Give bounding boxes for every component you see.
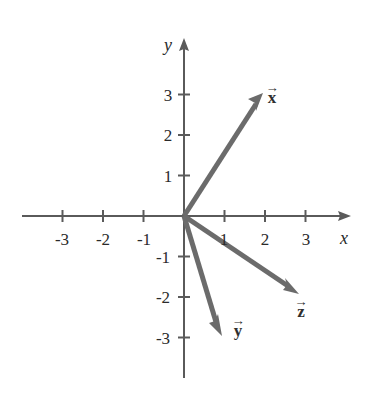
- x-tick-label-3: 3: [302, 231, 311, 248]
- x-tick-label--3: -3: [55, 231, 69, 248]
- x-tick-label--2: -2: [96, 231, 110, 248]
- vector-y-label-arrow-icon: →: [231, 313, 244, 326]
- x-tick-label-2: 2: [261, 231, 270, 248]
- x-axis-label: x: [340, 229, 348, 247]
- vector-z-label: → z: [297, 303, 305, 320]
- vector-y-label: → y: [234, 322, 243, 339]
- coordinate-plane-svg: [0, 0, 381, 398]
- y-tick-label--1: -1: [156, 249, 170, 266]
- y-tick-label--2: -2: [156, 289, 170, 306]
- x-tick-label--1: -1: [137, 231, 151, 248]
- x-tick-label-1: 1: [220, 231, 229, 248]
- vector-z-label-arrow-icon: →: [294, 294, 307, 307]
- y-tick-label--3: -3: [156, 330, 170, 347]
- y-tick-label-1: 1: [164, 168, 173, 185]
- vector-x-arrow: [184, 93, 263, 216]
- vector-z-arrow: [184, 216, 299, 294]
- vector-y-arrow: [184, 216, 222, 336]
- vector-x-label-arrow-icon: →: [265, 80, 278, 93]
- vector-diagram-figure: -3 -2 -1 1 2 3 3 2 1 -1 -2 -3 x y → x → …: [0, 0, 381, 398]
- vector-x-shaft: [184, 104, 256, 216]
- vector-x-label: → x: [268, 89, 277, 106]
- y-axis-label: y: [164, 36, 172, 54]
- y-tick-label-2: 2: [164, 127, 173, 144]
- y-tick-label-3: 3: [164, 87, 173, 104]
